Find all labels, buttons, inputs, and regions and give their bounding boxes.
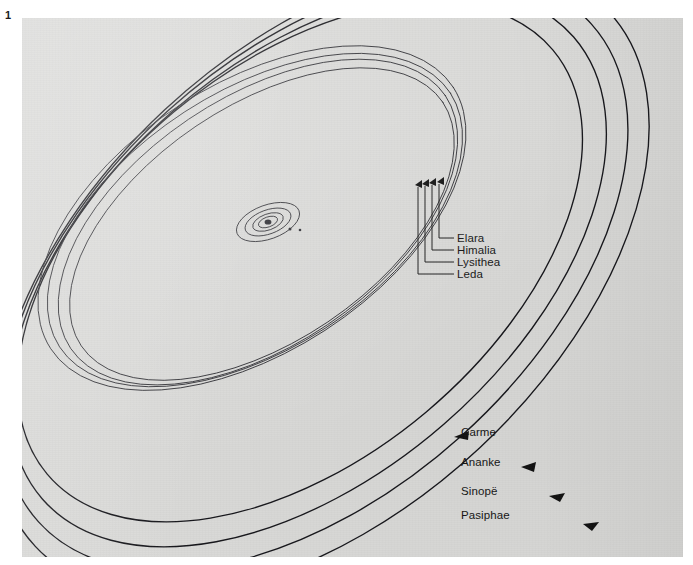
label-ananke: Ananke [461,456,501,468]
leader-elara [439,184,454,238]
galilean-moon-dot [289,228,292,231]
figure-number: 1 [5,10,11,21]
orbit-ananke [22,18,683,557]
jupiter-system [231,195,305,250]
inner-orbit-arrowheads [415,177,444,188]
orbit-diagram: Elara Himalia Lysithea Leda Carme Ananke [22,18,683,557]
jupiter-disc [265,219,272,224]
label-pasiphae: Pasiphae [461,509,510,521]
label-sinope: Sinopë [461,485,497,497]
arrowhead-lysithea [422,179,429,187]
inner-group-labels: Elara Himalia Lysithea Leda [457,232,501,280]
label-leda: Leda [457,268,483,280]
arrowhead-ananke [521,462,536,472]
orbit-pasiphae [22,18,683,557]
orbit-carme [22,18,679,557]
arrowhead-elara [437,177,444,185]
orbit-elara [22,18,526,461]
figure-plate: Elara Himalia Lysithea Leda Carme Ananke [22,18,683,557]
arrowhead-himalia [429,178,436,186]
figure-root: 1 [0,0,693,565]
inner-orbit-group [22,18,526,461]
outer-group-labels: Carme Ananke Sinopë Pasiphae [461,426,510,521]
label-lysithea: Lysithea [457,256,501,268]
arrowhead-leda [415,180,422,188]
outer-orbit-group [22,18,683,557]
label-elara: Elara [457,232,485,244]
orbit-himalia [22,18,521,455]
label-himalia: Himalia [457,244,497,256]
label-carme: Carme [461,426,496,438]
orbit-sinope [22,18,683,557]
arrowhead-sinope [549,493,565,502]
arrowhead-pasiphae [583,522,599,531]
galilean-moon-dot [299,229,302,232]
